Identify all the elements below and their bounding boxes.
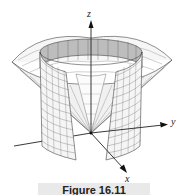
- caption-bar: Figure 16.11: [38, 183, 150, 195]
- figure-caption: Figure 16.11: [38, 184, 150, 195]
- origin-point: [89, 131, 92, 134]
- cylinder-cone-figure: [0, 0, 185, 195]
- z-axis-label: z: [87, 9, 91, 19]
- y-axis-label: y: [171, 117, 175, 127]
